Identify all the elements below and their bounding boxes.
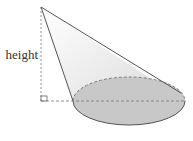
height-label: height xyxy=(6,47,39,62)
oblique-cone-diagram: height xyxy=(0,0,193,141)
right-angle-marker xyxy=(41,96,47,101)
